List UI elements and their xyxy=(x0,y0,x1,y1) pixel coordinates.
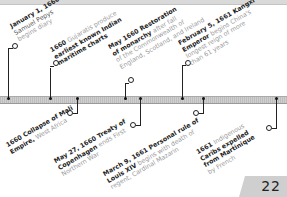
event-stem xyxy=(140,99,141,125)
event-hook xyxy=(199,113,204,114)
event-dot xyxy=(76,97,79,100)
event-stem xyxy=(182,66,183,99)
event-hook xyxy=(272,128,277,129)
event-hook xyxy=(8,48,13,49)
event-label-1660-mali: 1660 Collapse of Mali Empire, West Afric… xyxy=(4,104,77,155)
event-hook xyxy=(182,65,186,66)
event-stem xyxy=(50,68,51,99)
event-dot xyxy=(7,97,10,100)
event-hook xyxy=(50,66,54,67)
event-marker-ring xyxy=(130,122,136,128)
timeline-axis xyxy=(0,96,287,104)
event-stem xyxy=(77,99,78,113)
event-label-1661-caribs: 1661 Indigenous Caribs expelled from Mar… xyxy=(195,120,260,175)
event-dot xyxy=(181,97,184,100)
event-label-jan-1660: January 1, 1660 Samuel Pepys begins diar… xyxy=(9,0,69,43)
event-dot xyxy=(275,97,278,100)
event-dot xyxy=(124,97,127,100)
event-stem xyxy=(276,99,277,128)
event-marker-ring xyxy=(193,110,199,116)
event-hook xyxy=(136,125,141,126)
event-dot xyxy=(49,97,52,100)
event-stem xyxy=(203,99,204,113)
event-marker-ring xyxy=(266,125,272,131)
event-dot xyxy=(139,97,142,100)
page-number-tab: 22 xyxy=(245,176,287,197)
event-stem xyxy=(8,48,9,99)
event-hook xyxy=(125,83,129,84)
event-dot xyxy=(202,97,205,100)
page-number: 22 xyxy=(261,178,281,194)
